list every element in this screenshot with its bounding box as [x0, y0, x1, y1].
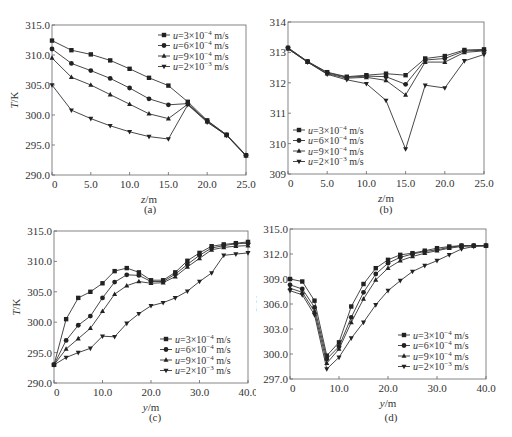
chart-d: 297.0300.0303.0306.0309.0312.0315.0010.0… — [256, 218, 512, 437]
x-axis-label: y/m — [379, 397, 397, 409]
square-marker-icon — [164, 337, 168, 341]
circle-marker-icon — [162, 43, 167, 48]
square-marker-icon — [50, 38, 54, 42]
y-tick-label: 309 — [270, 168, 287, 180]
x-tick-label: 20.0 — [435, 177, 455, 189]
y-tick-label: 305.0 — [27, 286, 52, 298]
square-marker-icon — [76, 296, 80, 300]
triangle-up-marker-icon — [386, 265, 391, 270]
circle-marker-icon — [112, 280, 117, 285]
square-marker-icon — [69, 48, 73, 52]
square-marker-icon — [403, 73, 407, 77]
y-tick-label: 290.0 — [27, 377, 52, 389]
data-series — [50, 83, 249, 158]
triangle-down-marker-icon — [403, 147, 408, 152]
chart-panel-c: 290.0295.0300.0305.0310.0315.0010.020.03… — [0, 218, 256, 437]
chart-panel-d: 297.0300.0303.0306.0309.0312.0315.0010.0… — [256, 218, 512, 437]
circle-marker-icon — [64, 338, 69, 343]
y-tick-label: 310.0 — [27, 255, 52, 267]
x-tick-label: 20.0 — [141, 386, 161, 398]
x-tick-label: 0 — [52, 178, 58, 190]
x-tick-label: 15.0 — [159, 178, 179, 190]
triangle-up-marker-icon — [50, 55, 55, 60]
x-tick-label: 30.0 — [190, 386, 210, 398]
circle-marker-icon — [108, 76, 113, 81]
legend-label: u=3×10−4 m/s — [173, 29, 229, 41]
x-tick-label: 30.0 — [427, 382, 447, 394]
triangle-down-marker-icon — [209, 271, 214, 276]
square-marker-icon — [288, 277, 292, 281]
legend-label: u=6×10−4 m/s — [175, 343, 231, 355]
y-tick-label: 295.0 — [25, 139, 50, 151]
circle-marker-icon — [88, 68, 93, 73]
triangle-down-marker-icon — [197, 280, 202, 285]
square-marker-icon — [374, 266, 378, 270]
legend-label: u=3×10−4 m/s — [175, 333, 231, 345]
circle-marker-icon — [136, 273, 141, 278]
legend-label: u=6×10−4 m/s — [413, 339, 469, 351]
legend-label: u=9×10−4 m/s — [173, 50, 229, 62]
legend-label: u=6×10−4 m/s — [173, 39, 229, 51]
square-marker-icon — [402, 333, 406, 337]
caption-b: (b) — [366, 203, 406, 215]
triangle-down-marker-icon — [297, 160, 302, 165]
data-series — [286, 46, 486, 79]
y-tick-label: 310 — [270, 138, 287, 150]
square-marker-icon — [88, 290, 92, 294]
y-axis-label: T/K — [256, 295, 258, 312]
y-tick-label: 290.0 — [25, 169, 50, 181]
y-tick-label: 313 — [270, 46, 287, 58]
legend-label: u=9×10−4 m/s — [308, 145, 364, 157]
x-tick-label: 40.0 — [476, 382, 496, 394]
x-tick-label: 0 — [54, 386, 60, 398]
circle-marker-icon — [69, 61, 74, 66]
legend-label: u=2×10−3 m/s — [175, 364, 231, 376]
square-marker-icon — [349, 304, 353, 308]
triangle-down-marker-icon — [112, 335, 117, 340]
x-tick-label: 10.0 — [357, 177, 377, 189]
circle-marker-icon — [147, 96, 152, 101]
legend-label: u=3×10−4 m/s — [308, 124, 364, 136]
x-tick-label: 5.0 — [84, 178, 98, 190]
triangle-down-marker-icon — [166, 137, 171, 142]
y-tick-label: 300.0 — [27, 316, 52, 328]
chart-panel-b: 30931031131231331405.010.015.020.025.0z/… — [256, 0, 512, 218]
circle-marker-icon — [166, 102, 171, 107]
square-marker-icon — [100, 281, 104, 285]
circle-marker-icon — [127, 86, 132, 91]
y-tick-label: 297.0 — [263, 373, 288, 385]
circle-marker-icon — [100, 295, 105, 300]
triangle-down-marker-icon — [364, 82, 369, 87]
circle-marker-icon — [402, 343, 407, 348]
circle-marker-icon — [403, 82, 408, 87]
y-tick-label: 303.0 — [263, 323, 288, 335]
legend-label: u=2×10−3 m/s — [413, 360, 469, 372]
circle-marker-icon — [373, 272, 378, 277]
square-marker-icon — [361, 282, 365, 286]
y-tick-label: 295.0 — [27, 347, 52, 359]
y-tick-label: 300.0 — [263, 348, 288, 360]
triangle-up-marker-icon — [162, 53, 167, 58]
circle-marker-icon — [88, 314, 93, 319]
x-tick-label: 0 — [288, 177, 294, 189]
triangle-down-marker-icon — [442, 86, 447, 91]
square-marker-icon — [297, 128, 301, 132]
circle-marker-icon — [50, 47, 55, 52]
square-marker-icon — [127, 67, 131, 71]
triangle-down-marker-icon — [398, 279, 403, 284]
circle-marker-icon — [76, 323, 81, 328]
y-tick-label: 311 — [270, 107, 286, 119]
triangle-up-marker-icon — [112, 291, 117, 296]
legend: u=3×10−4 m/su=6×10−4 m/su=9×10−4 m/su=2×… — [158, 29, 229, 73]
y-tick-label: 310.0 — [25, 49, 50, 61]
x-tick-label: 10.0 — [120, 178, 140, 190]
square-marker-icon — [112, 269, 116, 273]
x-tick-label: 20.0 — [198, 178, 218, 190]
square-marker-icon — [125, 266, 129, 270]
circle-marker-icon — [361, 290, 366, 295]
x-tick-label: 0 — [290, 382, 296, 394]
y-axis-label: T/K — [10, 298, 22, 315]
legend: u=3×10−4 m/su=6×10−4 m/su=9×10−4 m/su=2×… — [293, 124, 364, 168]
legend-label: u=9×10−4 m/s — [413, 350, 469, 362]
circle-marker-icon — [386, 261, 391, 266]
